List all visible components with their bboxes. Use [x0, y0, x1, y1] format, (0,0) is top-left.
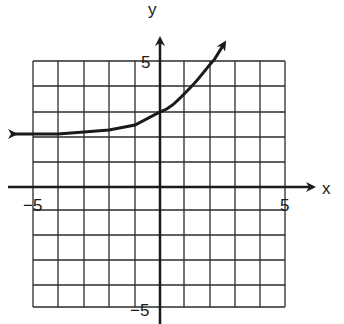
x-max-tick-label: 5 [280, 197, 289, 214]
y-min-tick-label: −5 [130, 302, 149, 319]
y-axis-label: y [148, 1, 157, 18]
x-min-tick-label: −5 [23, 197, 42, 214]
coordinate-plane [0, 0, 344, 324]
y-max-tick-label: 5 [141, 54, 150, 71]
exponential-curve [14, 44, 224, 134]
x-axis-label: x [322, 180, 331, 197]
